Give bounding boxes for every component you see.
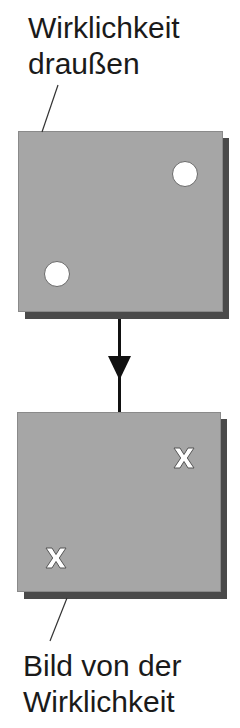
bottom-label-line-1: Bild von der: [23, 648, 181, 684]
top-label-line-1: Wirklichkeit: [28, 10, 180, 46]
bottom-leader-line: [50, 598, 67, 641]
x-marker-1: [171, 446, 197, 470]
bottom-box-image: [17, 412, 221, 592]
arrow-head-icon: [108, 356, 131, 380]
top-label: Wirklichkeit draußen: [28, 10, 180, 82]
top-box-reality: [18, 131, 223, 312]
bottom-label-line-2: Wirklichkeit: [23, 684, 181, 720]
connectors: [0, 0, 240, 728]
x-marker-2: [43, 546, 69, 570]
top-label-line-2: draußen: [28, 46, 180, 82]
diagram-canvas: Wirklichkeit draußen Bild von der Wirkli…: [0, 0, 240, 728]
bottom-label: Bild von der Wirklichkeit: [23, 648, 181, 720]
circle-marker-1: [172, 161, 198, 187]
top-leader-line: [42, 85, 58, 132]
circle-marker-2: [44, 261, 70, 287]
